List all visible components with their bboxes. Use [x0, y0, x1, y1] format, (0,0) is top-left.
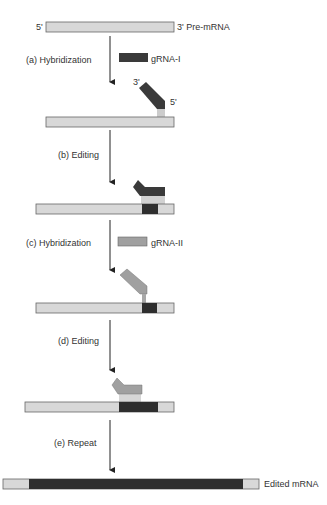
edited-mrna-label: Edited mRNA — [264, 479, 319, 489]
pre-mrna-bar — [46, 22, 174, 32]
grna1-edited — [133, 180, 165, 204]
step-a-label: (a) Hybridization — [26, 55, 92, 65]
grna2-hybridized — [120, 269, 147, 303]
pre-mrna-label: 3' Pre-mRNA — [177, 22, 230, 32]
step-c-label: (c) Hybridization — [26, 238, 91, 248]
five-prime-label: 5' — [36, 22, 43, 32]
mrna-bar-2 — [46, 117, 174, 127]
step-b-label: (b) Editing — [58, 150, 99, 160]
edited-segment-1 — [142, 204, 158, 214]
grna1-3prime-label: 3' — [133, 77, 140, 87]
step-e-label: (e) Repeat — [54, 438, 97, 448]
grna1-5prime-label: 5' — [170, 97, 177, 107]
grna1-hybridized — [139, 82, 165, 117]
diagram-canvas — [0, 0, 327, 505]
grna1-label: gRNA-I — [151, 54, 181, 64]
grna2-legend-box — [118, 237, 147, 246]
grna2-edited — [112, 378, 142, 402]
edited-segment-3 — [119, 402, 158, 412]
edited-segment-2 — [142, 303, 157, 313]
grna2-label: gRNA-II — [151, 238, 183, 248]
grna1-legend-box — [119, 53, 148, 62]
step-d-label: (d) Editing — [58, 336, 99, 346]
edited-mrna-segment — [29, 479, 243, 489]
